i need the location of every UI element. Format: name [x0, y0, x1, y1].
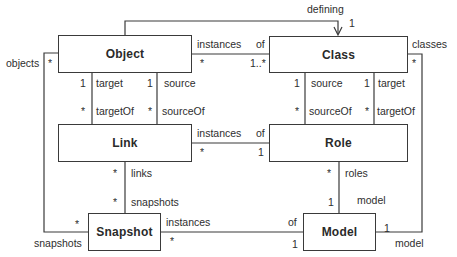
- role-roles: roles: [345, 167, 368, 179]
- mult-link-role-link: *: [200, 146, 204, 158]
- role-snapshots-link: snapshots: [131, 196, 179, 208]
- role-instances-snapshot-model: instances: [166, 216, 210, 228]
- role-class-target: target: [378, 77, 405, 89]
- class-name-object: Object: [106, 47, 145, 61]
- role-of-snapshot-model: of: [288, 216, 297, 228]
- class-name-model: Model: [322, 225, 358, 239]
- mult-source-class: 1: [294, 77, 300, 89]
- class-name-class: Class: [322, 48, 355, 62]
- class-box-role[interactable]: Role: [269, 124, 408, 162]
- mult-snapshot-model-model: 1: [292, 238, 298, 250]
- class-name-snapshot: Snapshot: [96, 225, 152, 239]
- mult-model-role: 1: [328, 196, 334, 208]
- mult-snapshots-link: *: [113, 196, 117, 208]
- role-target: target: [96, 77, 123, 89]
- role-model-class: model: [395, 237, 424, 249]
- mult-target-object: 1: [80, 77, 86, 89]
- role-classes: classes: [412, 38, 447, 50]
- mult-sourceof-link: *: [148, 105, 152, 117]
- defining-line: [125, 21, 338, 35]
- mult-snapshots-object: *: [75, 218, 79, 230]
- class-box-model[interactable]: Model: [303, 213, 376, 251]
- role-links: links: [131, 167, 152, 179]
- role-class-source: source: [311, 77, 343, 89]
- role-snapshots-object: snapshots: [34, 237, 82, 249]
- mult-object-class-object: *: [200, 57, 204, 69]
- class-box-object[interactable]: Object: [58, 35, 192, 73]
- role-of-link-role: of: [256, 127, 265, 139]
- role-class-targetof: targetOf: [377, 105, 415, 117]
- role-instances-object-class: instances: [197, 38, 241, 50]
- class-name-link: Link: [112, 136, 137, 150]
- mult-links: *: [113, 167, 117, 179]
- role-sourceof: sourceOf: [162, 105, 205, 117]
- role-defining: defining: [307, 3, 344, 15]
- class-box-snapshot[interactable]: Snapshot: [88, 213, 161, 251]
- mult-targetof-role: *: [365, 105, 369, 117]
- mult-link-role-role: 1: [258, 146, 264, 158]
- mult-object-class-class: 1..*: [250, 57, 266, 69]
- mult-classes: *: [412, 57, 416, 69]
- mult-roles: *: [327, 167, 331, 179]
- role-targetof: targetOf: [96, 105, 134, 117]
- class-box-link[interactable]: Link: [58, 124, 192, 162]
- mult-defining: 1: [349, 17, 355, 29]
- mult-model-class: 1: [384, 222, 390, 234]
- mult-target-class: 1: [364, 77, 370, 89]
- role-of-object-class: of: [256, 38, 265, 50]
- role-model-role: model: [357, 194, 386, 206]
- mult-sourceof-role: *: [295, 105, 299, 117]
- mult-source-object: 1: [147, 77, 153, 89]
- class-box-class[interactable]: Class: [269, 36, 408, 73]
- mult-objects: *: [48, 57, 52, 69]
- mult-snapshot-model-snapshot: *: [170, 235, 174, 247]
- role-source: source: [164, 77, 196, 89]
- class-name-role: Role: [325, 136, 352, 150]
- role-objects: objects: [6, 57, 39, 69]
- role-class-sourceof: sourceOf: [309, 105, 352, 117]
- role-instances-link-role: instances: [197, 127, 241, 139]
- mult-targetof-link: *: [81, 105, 85, 117]
